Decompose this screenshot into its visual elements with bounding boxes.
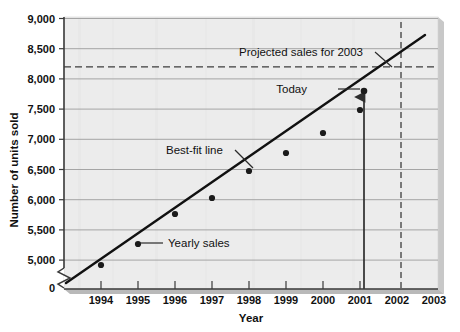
y-tick-8500: 8,500 [27, 43, 55, 55]
data-point-1994 [98, 262, 104, 268]
x-tick-2000: 2000 [311, 294, 335, 306]
y-tick-0: 0 [49, 282, 55, 294]
y-tick-7000: 7,000 [27, 133, 55, 145]
data-point-1996 [172, 211, 178, 217]
today-label: Today [276, 83, 307, 95]
best-fit-line-label: Best-fit line [166, 144, 223, 156]
data-point-2001 [357, 107, 363, 113]
x-tick-labels: 1994 1995 1996 1997 1998 1999 2000 2001 … [89, 294, 446, 306]
x-tick-2002: 2002 [385, 294, 409, 306]
y-tick-5000: 5,000 [27, 254, 55, 266]
chart-figure: Projected sales for 2003 Today Best-fit … [0, 0, 460, 332]
x-axis-title: Year [239, 312, 264, 324]
x-tick-1997: 1997 [200, 294, 224, 306]
x-tick-1995: 1995 [126, 294, 150, 306]
y-tick-6000: 6,000 [27, 194, 55, 206]
y-tick-labels: 9,000 8,500 8,000 7,500 7,000 6,500 6,00… [27, 13, 55, 295]
x-tick-1999: 1999 [274, 294, 298, 306]
data-point-2002 [361, 88, 368, 95]
sales-trend-chart: Projected sales for 2003 Today Best-fit … [0, 0, 460, 332]
x-tick-1994: 1994 [89, 294, 114, 306]
data-point-1995 [135, 241, 141, 247]
y-axis-title: Number of units sold [8, 113, 20, 228]
y-tick-8000: 8,000 [27, 73, 55, 85]
x-tick-1996: 1996 [163, 294, 187, 306]
projected-sales-label: Projected sales for 2003 [239, 46, 363, 58]
data-point-2000 [320, 130, 326, 136]
y-tick-7500: 7,500 [27, 103, 55, 115]
yearly-sales-label: Yearly sales [168, 237, 230, 249]
x-tick-1998: 1998 [237, 294, 261, 306]
x-tick-2003: 2003 [422, 294, 446, 306]
y-tick-9000: 9,000 [27, 13, 55, 25]
data-point-1998 [246, 168, 252, 174]
x-tick-2001: 2001 [348, 294, 372, 306]
data-point-1999 [283, 150, 289, 156]
y-tick-5500: 5,500 [27, 224, 55, 236]
y-tick-6500: 6,500 [27, 164, 55, 176]
data-point-1997 [209, 195, 215, 201]
